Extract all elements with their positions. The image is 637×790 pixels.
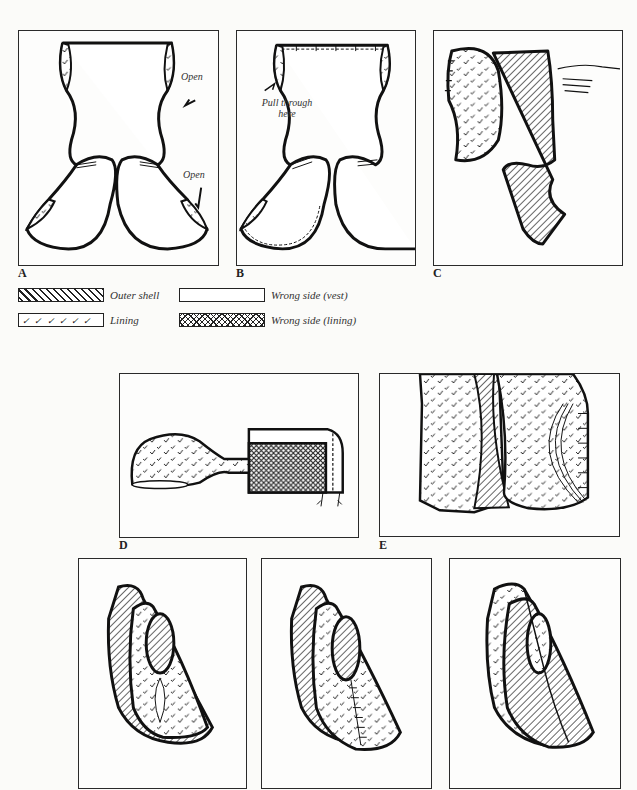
figure-label-d: D — [119, 538, 128, 553]
figure-h-panel — [449, 558, 621, 789]
figure-label-c: C — [433, 266, 442, 281]
figure-f-panel — [78, 558, 247, 789]
legend-item-outer-shell: Outer shell — [18, 288, 159, 302]
vest-lining-closeup-illustration — [380, 374, 619, 536]
wrong-side-vest-swatch-icon — [179, 288, 265, 302]
figure-g-panel — [261, 558, 432, 789]
legend-label: Lining — [110, 314, 139, 326]
figure-c-panel — [433, 30, 623, 266]
vest-stitched-illustration — [237, 31, 415, 265]
vest-pull-through-illustration — [434, 31, 622, 265]
figure-e-panel — [379, 373, 620, 537]
legend-label: Outer shell — [110, 289, 159, 301]
wrong-side-lining-swatch-icon — [179, 313, 265, 327]
vest-side-seam-stitched-illustration — [262, 559, 431, 788]
figure-label-a: A — [18, 266, 27, 281]
outer-shell-swatch-icon — [18, 288, 104, 302]
legend-label: Wrong side (vest) — [271, 289, 348, 301]
lining-swatch-icon: ✓ ✓ ✓ ✓ ✓ ✓ ✓ ✓ — [18, 313, 104, 327]
figure-d-panel — [119, 373, 359, 538]
vest-side-seam-open-illustration — [79, 559, 246, 788]
figure-label-b: B — [236, 266, 244, 281]
legend-item-wrong-side-vest: Wrong side (vest) — [179, 288, 348, 302]
vest-turning-illustration — [120, 374, 358, 537]
legend-item-lining: ✓ ✓ ✓ ✓ ✓ ✓ ✓ ✓ Lining — [18, 313, 139, 327]
legend-item-wrong-side-lining: Wrong side (lining) — [179, 313, 356, 327]
vest-flat-open-illustration — [19, 31, 218, 265]
figure-label-e: E — [379, 538, 387, 553]
vest-finished-illustration — [450, 559, 620, 788]
legend-label: Wrong side (lining) — [271, 314, 356, 326]
annotation-pull-through: Pull through here — [257, 97, 317, 119]
figure-b-panel: Pull through here — [236, 30, 416, 266]
annotation-open-upper: Open — [181, 71, 203, 82]
annotation-open-lower: Open — [183, 169, 205, 180]
figure-a-panel: Open Open — [18, 30, 219, 266]
